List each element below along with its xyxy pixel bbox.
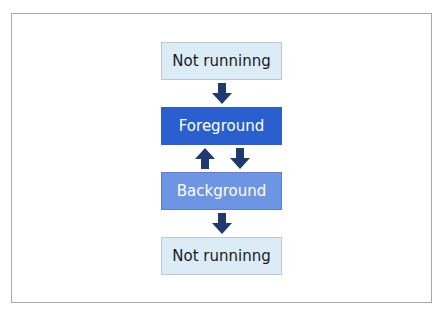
state-foreground: Foreground [161, 107, 282, 145]
arrow-down-icon [212, 83, 232, 104]
state-background: Background [161, 172, 282, 210]
state-not-running-bottom: Not runninng [161, 237, 282, 275]
arrow-down-icon [212, 213, 232, 234]
arrow-down-icon [230, 148, 250, 169]
state-not-running-top: Not runninng [161, 42, 282, 80]
state-label: Background [177, 182, 267, 200]
arrow-up-icon [195, 148, 215, 169]
state-label: Foreground [179, 117, 264, 135]
state-label: Not runninng [172, 52, 270, 70]
state-label: Not runninng [172, 247, 270, 265]
